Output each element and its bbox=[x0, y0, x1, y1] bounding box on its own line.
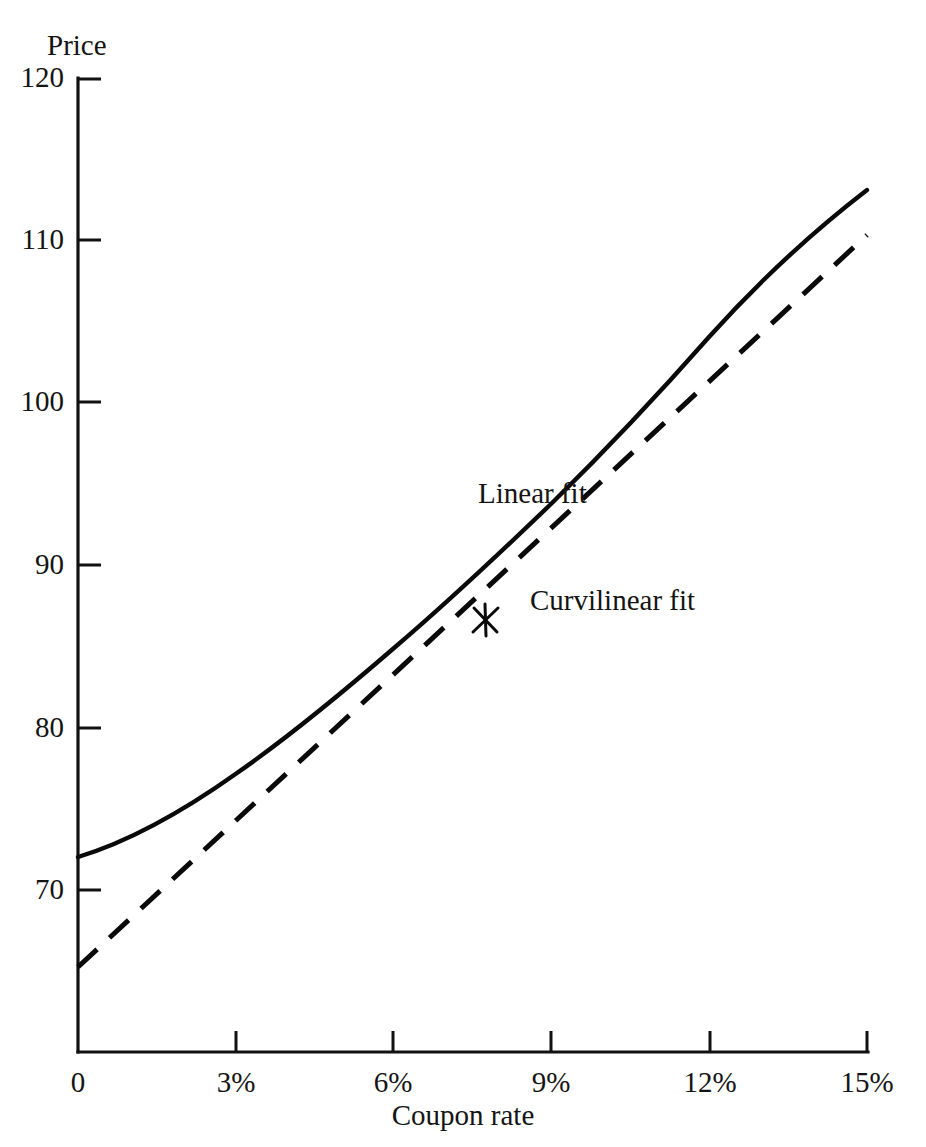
x-tick-label-6: 6% bbox=[345, 1068, 441, 1097]
curvilinear-fit-label: Curvilinear fit bbox=[530, 586, 695, 615]
linear-fit-label: Linear fit bbox=[478, 479, 587, 508]
y-tick-label-110: 110 bbox=[0, 225, 64, 254]
series-linear-fit bbox=[78, 235, 867, 967]
x-tick-label-12: 12% bbox=[655, 1068, 765, 1097]
series-curvilinear-fit bbox=[78, 190, 867, 857]
x-tick-label-15: 15% bbox=[812, 1068, 922, 1097]
x-axis-title: Coupon rate bbox=[0, 1101, 926, 1130]
y-tick-label-70: 70 bbox=[0, 875, 64, 904]
y-tick-label-90: 90 bbox=[0, 550, 64, 579]
x-tick-label-9: 9% bbox=[503, 1068, 599, 1097]
x-tick-label-0: 0 bbox=[38, 1068, 118, 1097]
y-tick-label-100: 100 bbox=[0, 387, 64, 416]
data-point-marker-icon bbox=[473, 604, 498, 636]
y-tick-label-120: 120 bbox=[0, 63, 64, 92]
chart-canvas bbox=[0, 0, 926, 1147]
chart-page: Price 120 110 100 90 80 70 0 3% 6% 9% 12… bbox=[0, 0, 926, 1147]
y-axis-title: Price bbox=[47, 31, 107, 60]
x-tick-label-3: 3% bbox=[188, 1068, 284, 1097]
y-tick-label-80: 80 bbox=[0, 713, 64, 742]
